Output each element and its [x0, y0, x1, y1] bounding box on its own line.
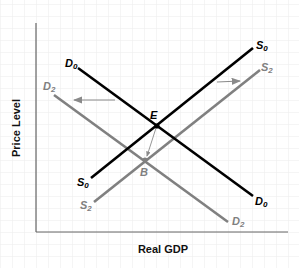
ad-as-diagram: Price Level Real GDP E B D0 D0 D2 D2 S0 … — [0, 0, 299, 268]
grid-background — [0, 0, 299, 268]
x-axis-title: Real GDP — [138, 243, 188, 255]
point-b-marker — [143, 158, 148, 163]
point-e-marker — [154, 123, 159, 128]
y-axis-title: Price Level — [10, 99, 22, 157]
point-b-label: B — [140, 166, 148, 178]
point-e-label: E — [150, 109, 158, 121]
